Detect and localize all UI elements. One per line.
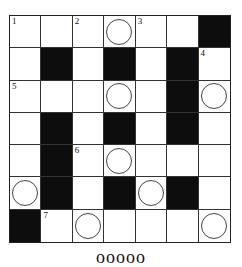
grid-cell[interactable]: 3 (136, 16, 167, 48)
grid-cell[interactable] (167, 210, 198, 242)
grid-cell[interactable]: 2 (73, 16, 104, 48)
clue-number: 4 (201, 48, 206, 58)
grid-cell[interactable] (136, 81, 167, 113)
circle-marker-icon (12, 180, 38, 206)
grid-cell[interactable]: 7 (41, 210, 72, 242)
clue-number: 5 (12, 81, 17, 91)
grid-cell[interactable] (136, 113, 167, 145)
black-cell (167, 177, 198, 209)
grid-cell[interactable]: 6 (73, 145, 104, 177)
grid-cell[interactable] (73, 113, 104, 145)
grid-cell[interactable] (104, 16, 135, 48)
circle-marker-icon (138, 180, 164, 206)
black-cell (167, 81, 198, 113)
black-cell (41, 145, 72, 177)
grid-cell[interactable] (41, 81, 72, 113)
grid-cell[interactable] (10, 48, 41, 80)
grid-cell[interactable] (199, 145, 230, 177)
circle-marker-icon (106, 19, 132, 45)
grid-cell[interactable] (136, 48, 167, 80)
grid-cell[interactable] (73, 48, 104, 80)
grid-cell[interactable] (199, 81, 230, 113)
black-cell (104, 177, 135, 209)
crossword-grid: 1234567 (9, 15, 231, 243)
clue-number: 7 (43, 210, 48, 220)
grid-cell[interactable] (199, 210, 230, 242)
answer-blanks: ooooo (0, 248, 242, 266)
black-cell (199, 16, 230, 48)
black-cell (41, 113, 72, 145)
grid-cell[interactable]: 5 (10, 81, 41, 113)
circle-marker-icon (201, 213, 227, 239)
black-cell (167, 113, 198, 145)
clue-number: 6 (75, 145, 80, 155)
grid-cell[interactable] (136, 210, 167, 242)
circle-marker-icon (106, 83, 132, 109)
circle-marker-icon (106, 148, 132, 174)
black-cell (41, 177, 72, 209)
black-cell (41, 48, 72, 80)
black-cell (104, 48, 135, 80)
grid-cell[interactable] (199, 113, 230, 145)
grid-cell[interactable] (104, 145, 135, 177)
black-cell (167, 48, 198, 80)
grid-cell[interactable]: 4 (199, 48, 230, 80)
grid-cell[interactable] (136, 145, 167, 177)
grid-cell[interactable] (199, 177, 230, 209)
grid-cell[interactable] (10, 113, 41, 145)
grid-cell[interactable]: 1 (10, 16, 41, 48)
clue-number: 2 (75, 16, 80, 26)
grid-cell[interactable] (73, 210, 104, 242)
grid-cell[interactable] (10, 145, 41, 177)
clue-number: 3 (138, 16, 143, 26)
grid-cell[interactable] (167, 145, 198, 177)
grid-cell[interactable] (104, 210, 135, 242)
grid-cell[interactable] (73, 81, 104, 113)
circle-marker-icon (201, 83, 227, 109)
grid-cell[interactable] (136, 177, 167, 209)
grid-cell[interactable] (10, 177, 41, 209)
black-cell (104, 113, 135, 145)
clue-number: 1 (12, 16, 17, 26)
grid-cell[interactable] (73, 177, 104, 209)
grid-cell[interactable] (41, 16, 72, 48)
black-cell (10, 210, 41, 242)
circle-marker-icon (75, 213, 101, 239)
grid-cell[interactable] (104, 81, 135, 113)
grid-cell[interactable] (167, 16, 198, 48)
